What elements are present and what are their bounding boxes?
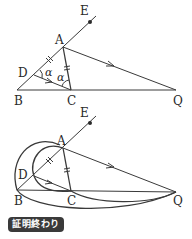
label-A: A (54, 33, 64, 47)
angle-label-alpha-C: α (57, 71, 65, 84)
label-D: D (18, 168, 28, 182)
geometry-diagram: E A D B C Q α α E A D B C Q (0, 0, 192, 239)
point-E-dot (88, 121, 92, 125)
equal-tick-icon (64, 168, 70, 169)
label-E: E (80, 106, 89, 120)
equal-tick-icon (64, 171, 70, 172)
label-B: B (14, 194, 23, 208)
segment-AQ (63, 148, 176, 192)
label-D: D (18, 66, 28, 80)
segment-BQ (17, 190, 176, 192)
label-E: E (80, 4, 89, 18)
figure-2 (15, 116, 176, 208)
line-BE (17, 116, 96, 190)
proof-complete-badge: 証明終わり (8, 217, 64, 232)
curve-ADCQ (33, 146, 176, 201)
label-Q: Q (173, 194, 183, 208)
angle-arc-D (40, 70, 42, 78)
equal-tick-icon (64, 66, 70, 67)
equal-tick-icon (64, 69, 70, 70)
label-Q: Q (173, 94, 183, 108)
segment-DC (34, 75, 71, 90)
label-A: A (56, 134, 66, 148)
angle-label-alpha-D: α (45, 66, 53, 79)
label-C: C (67, 94, 76, 108)
figure-1 (17, 16, 176, 90)
label-C: C (67, 194, 76, 208)
label-B: B (14, 94, 23, 108)
point-E-dot (88, 20, 92, 24)
segment-AQ (63, 47, 176, 90)
segment-AC (63, 148, 71, 191)
